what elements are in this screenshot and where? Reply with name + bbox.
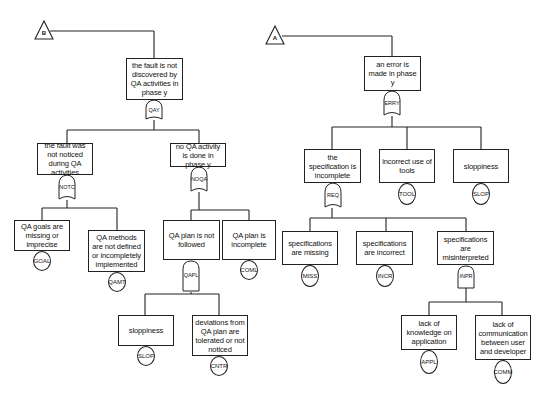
gate-label: REQ xyxy=(324,192,342,198)
or-gate-noqa: NOQA xyxy=(190,167,208,192)
event-qa-goals-missing: QA goals are missing or imprecise xyxy=(14,220,70,251)
and-gate-qapl: QAPL xyxy=(182,260,200,292)
gate-label: INPR xyxy=(457,273,475,279)
event-fault-not-noticed: the fault was not noticed during QA acti… xyxy=(37,143,93,175)
basic-event-slop-a: SLOP xyxy=(472,183,490,205)
event-sloppiness-b: sloppiness xyxy=(118,315,174,346)
basic-event-coml: COML xyxy=(240,260,258,280)
event-spec-misinterpreted: specifications are misinterpreted xyxy=(437,231,494,265)
event-lack-of-communication: lack of communication between user and d… xyxy=(475,315,531,360)
event-qa-plan-not-followed: QA plan is not followed xyxy=(163,220,220,260)
basic-event-incr: INCR xyxy=(376,265,394,287)
event-incorrect-tools: incorrect use of tools xyxy=(379,149,435,183)
event-qa-plan-incomplete: QA plan is incomplete xyxy=(222,220,276,260)
or-gate-erry: ERRY xyxy=(383,91,401,116)
basic-event-goal: GOAL xyxy=(33,251,51,271)
basic-event-tool: TOOL xyxy=(398,183,416,205)
gate-label: NOQA xyxy=(190,176,208,182)
basic-event-comm: COMM xyxy=(494,360,512,384)
transfer-triangle-a: A xyxy=(265,25,285,45)
or-gate-notc: NOTC xyxy=(58,175,76,200)
basic-event-slop-b: SLOP xyxy=(137,346,155,366)
transfer-triangle-b: B xyxy=(34,20,54,40)
event-lack-of-knowledge: lack of knowledge on application xyxy=(401,315,457,350)
gate-label: QAY xyxy=(145,107,163,113)
and-gate-inpr: INPR xyxy=(457,265,475,289)
event-error-made: an error is made in phase y xyxy=(364,56,421,91)
event-spec-incorrect: specifications are incorrect xyxy=(356,231,413,265)
transfer-label: A xyxy=(265,35,285,41)
gate-label: QAPL xyxy=(182,272,200,278)
event-sloppiness-a: sloppiness xyxy=(453,149,509,183)
event-spec-incomplete: the specification is incomplete xyxy=(304,149,361,183)
event-no-qa-activity: no QA activity is done in phase y xyxy=(170,143,226,167)
gate-label: ERRY xyxy=(383,100,401,106)
basic-event-qamt: QAMT xyxy=(108,272,126,292)
event-fault-not-discovered: the fault is not discovered by QA activi… xyxy=(126,58,183,100)
transfer-label: B xyxy=(34,30,54,36)
or-gate-qay: QAY xyxy=(145,100,163,120)
event-deviations-tolerated: deviations from QA plan are tolerated or… xyxy=(192,315,248,356)
basic-event-appl: APPL xyxy=(420,350,438,374)
or-gate-req: REQ xyxy=(324,183,342,208)
event-spec-missing: specifications are missing xyxy=(282,231,338,265)
event-qa-methods-not-defined: QA methods are not defined or incomplete… xyxy=(88,230,145,272)
basic-event-miss: MISS xyxy=(301,265,319,287)
connector-lines xyxy=(0,0,545,403)
gate-label: NOTC xyxy=(58,184,76,190)
fault-tree-diagram: B A the fault is not discovered by QA ac… xyxy=(0,0,545,403)
basic-event-cntr: CNTR xyxy=(210,356,228,376)
